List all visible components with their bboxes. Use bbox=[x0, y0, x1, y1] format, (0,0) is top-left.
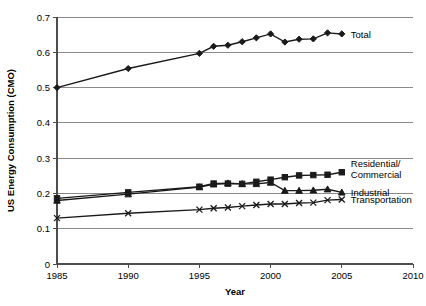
x-tick-label-1990: 1990 bbox=[118, 270, 139, 281]
x-tick-label-1995: 1995 bbox=[189, 270, 210, 281]
series-marker-total bbox=[196, 50, 202, 56]
x-tick-label-2000: 2000 bbox=[260, 270, 281, 281]
y-tick-label-0.5: 0.5 bbox=[37, 82, 50, 93]
series-marker-total bbox=[225, 42, 231, 48]
series-marker-total bbox=[324, 30, 330, 36]
x-tick-label-2005: 2005 bbox=[331, 270, 352, 281]
series-marker-residential-commercial bbox=[339, 170, 344, 175]
x-tick-label-2010: 2010 bbox=[402, 270, 423, 281]
series-marker-total bbox=[253, 35, 259, 41]
y-tick-label-0.3: 0.3 bbox=[37, 153, 50, 164]
series-marker-total bbox=[296, 36, 302, 42]
series-marker-total bbox=[125, 65, 131, 71]
y-tick-label-0: 0 bbox=[45, 259, 50, 270]
series-marker-total bbox=[211, 43, 217, 49]
series-label-residential-commercial-line2: Commercial bbox=[351, 169, 402, 180]
y-tick-label-0.4: 0.4 bbox=[37, 117, 50, 128]
series-label-transportation: Transportation bbox=[351, 194, 412, 205]
x-tick-label-1985: 1985 bbox=[46, 270, 67, 281]
chart-canvas: 00.10.20.30.40.50.60.7198519901995200020… bbox=[0, 0, 426, 306]
series-marker-total bbox=[282, 39, 288, 45]
series-marker-total bbox=[339, 31, 345, 37]
series-label-residential-commercial: Residential/ bbox=[351, 158, 401, 169]
series-label-total: Total bbox=[351, 29, 371, 40]
y-tick-label-0.7: 0.7 bbox=[37, 12, 50, 23]
y-tick-label-0.2: 0.2 bbox=[37, 188, 50, 199]
series-marker-residential-commercial bbox=[311, 172, 316, 177]
energy-consumption-line-chart: 00.10.20.30.40.50.60.7198519901995200020… bbox=[0, 0, 426, 306]
y-axis-title: US Energy Consumption (CMO) bbox=[5, 69, 16, 212]
series-marker-total bbox=[268, 31, 274, 37]
y-tick-label-0.1: 0.1 bbox=[37, 223, 50, 234]
series-marker-residential-commercial bbox=[325, 172, 330, 177]
series-marker-total bbox=[54, 84, 60, 90]
y-tick-label-0.6: 0.6 bbox=[37, 47, 50, 58]
series-marker-residential-commercial bbox=[296, 173, 301, 178]
x-axis-title: Year bbox=[225, 286, 245, 297]
series-marker-total bbox=[239, 39, 245, 45]
series-marker-residential-commercial bbox=[282, 174, 287, 179]
series-marker-total bbox=[310, 36, 316, 42]
